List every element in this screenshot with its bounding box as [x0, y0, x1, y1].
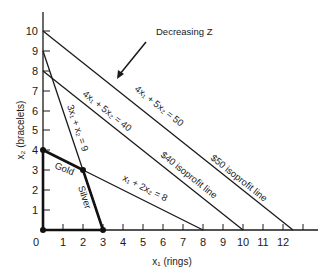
x-tick-labels: 0 1 2 3 4 5 6 7 8 9 10 11 12 [33, 236, 289, 248]
x-tick-label: 7 [180, 236, 186, 248]
x-tick-label: 1 [60, 236, 66, 248]
x-tick-label: 0 [33, 236, 39, 248]
x-tick-label: 5 [140, 236, 146, 248]
y-tick-label: 7 [32, 85, 38, 97]
y-tick-labels: 1 2 3 4 5 6 7 8 9 10 [26, 25, 38, 216]
y-tick-label: 4 [32, 144, 38, 156]
y-tick-label: 3 [32, 164, 38, 176]
x-tick-label: 12 [277, 236, 289, 248]
x-tick-label: 6 [160, 236, 166, 248]
x-tick-label: 11 [257, 236, 268, 248]
x-tick-label: 3 [100, 236, 106, 248]
gold-label: Gold [53, 160, 76, 178]
y-axis-title: x₂ (bracelets) [15, 101, 26, 160]
x-tick-label: 9 [220, 236, 226, 248]
decreasing-z-label: Decreasing Z [156, 26, 213, 37]
y-tick-label: 10 [26, 25, 38, 37]
feasible-region-boundary [43, 150, 103, 230]
x-tick-label: 10 [237, 236, 249, 248]
y-tick-label: 8 [32, 65, 38, 77]
y-tick-label: 2 [32, 184, 38, 196]
y-tick-label: 5 [32, 124, 38, 136]
y-tick-label: 1 [32, 204, 38, 216]
eq-gold-label: x₁ + 2x₂ = 8 [121, 172, 169, 204]
chart: 0 1 2 3 4 5 6 7 8 9 10 11 12 1 2 3 4 5 6… [0, 0, 326, 275]
y-tick-label: 9 [32, 45, 38, 57]
x-axis-title: x₁ (rings) [152, 256, 192, 267]
iso-50-label: $50 isoprofit line [209, 152, 270, 204]
eq-50-label: 4x₁ + 5x₂ = 50 [133, 83, 186, 128]
decreasing-z-arrow [120, 42, 146, 74]
eq-40-label: 4x₁ + 5x₂ = 40 [81, 88, 134, 133]
silver-label: Silver [76, 184, 94, 210]
x-tick-label: 4 [120, 236, 126, 248]
x-tick-label: 2 [80, 236, 86, 248]
y-tick-label: 6 [32, 105, 38, 117]
x-tick-label: 8 [200, 236, 206, 248]
